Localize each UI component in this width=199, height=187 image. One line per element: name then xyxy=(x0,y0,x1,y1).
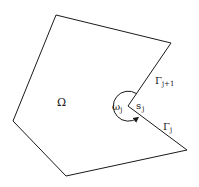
edge-gamma-j-plus-1-label: Γj+1 xyxy=(155,75,174,88)
vertex-s-label: sj xyxy=(136,100,144,113)
polygon-domain-diagram: Ω ωj sj Γj+1 Γj xyxy=(0,0,199,187)
edge-gamma-j-label: Γj xyxy=(163,121,172,134)
polygon-boundary xyxy=(13,15,187,176)
angle-omega-label: ωj xyxy=(112,101,122,114)
region-omega-label: Ω xyxy=(57,96,66,109)
